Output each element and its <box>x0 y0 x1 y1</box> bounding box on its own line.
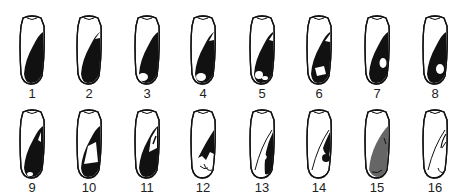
figure-number-label: 11 <box>132 181 162 194</box>
tooth-diagram-9: 9 <box>17 108 47 194</box>
tooth-diagram-16: 16 <box>420 108 450 194</box>
tooth-diagram-2: 2 <box>74 14 104 106</box>
tooth-diagram-10: 10 <box>74 108 104 194</box>
tooth-shape-icon <box>247 108 277 180</box>
tooth-diagram-7: 7 <box>362 14 392 106</box>
tooth-diagram-15: 15 <box>362 108 392 194</box>
tooth-diagram-13: 13 <box>247 108 277 194</box>
tooth-shape-icon <box>132 14 162 86</box>
tooth-shape-icon <box>420 108 450 180</box>
tooth-diagram-3: 3 <box>132 14 162 106</box>
tooth-diagram-4: 4 <box>188 14 218 106</box>
tooth-shape-icon <box>132 108 162 180</box>
tooth-shape-icon <box>188 108 218 180</box>
tooth-shape-icon <box>362 14 392 86</box>
figure-number-label: 13 <box>247 181 277 194</box>
figure-number-label: 6 <box>304 87 334 101</box>
figure-number-label: 2 <box>74 87 104 101</box>
tooth-diagram-1: 1 <box>17 14 47 106</box>
figure-number-label: 7 <box>362 87 392 101</box>
tooth-shape-icon <box>17 14 47 86</box>
figure-number-label: 10 <box>74 181 104 194</box>
figure-number-label: 4 <box>188 87 218 101</box>
tooth-shape-icon <box>362 108 392 180</box>
figure-number-label: 5 <box>247 87 277 101</box>
tooth-shape-icon <box>304 108 334 180</box>
tooth-shape-icon <box>188 14 218 86</box>
figure-number-label: 8 <box>420 87 450 101</box>
tooth-diagram-5: 5 <box>247 14 277 106</box>
tooth-shape-icon <box>17 108 47 180</box>
tooth-diagram-12: 12 <box>188 108 218 194</box>
tooth-diagram-8: 8 <box>420 14 450 106</box>
tooth-shape-icon <box>420 14 450 86</box>
figure-number-label: 12 <box>188 181 218 194</box>
figure-number-label: 9 <box>17 181 47 194</box>
tooth-shape-icon <box>247 14 277 86</box>
tooth-diagram-11: 11 <box>132 108 162 194</box>
tooth-diagram-14: 14 <box>304 108 334 194</box>
figure-number-label: 14 <box>304 181 334 194</box>
figure-number-label: 15 <box>362 181 392 194</box>
figure-number-label: 3 <box>132 87 162 101</box>
tooth-shape-icon <box>74 14 104 86</box>
tooth-diagram-6: 6 <box>304 14 334 106</box>
tooth-shape-icon <box>74 108 104 180</box>
tooth-shape-icon <box>304 14 334 86</box>
figure-number-label: 16 <box>420 181 450 194</box>
figure-number-label: 1 <box>17 87 47 101</box>
